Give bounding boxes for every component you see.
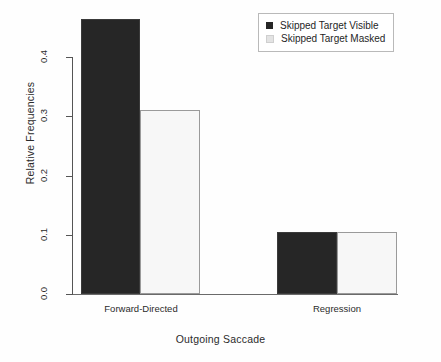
x-group-label-regression: Regression [277, 303, 397, 314]
bar-forward-directed-skipped-target-masked [140, 110, 200, 294]
legend-item-skipped-target-visible: Skipped Target Visible [266, 19, 385, 32]
x-axis-line [73, 294, 398, 295]
legend-item-skipped-target-masked: Skipped Target Masked [266, 32, 385, 45]
y-axis-tick-label: 0.0 [38, 277, 49, 311]
bar-regression-skipped-target-masked [337, 232, 397, 294]
x-axis-title: Outgoing Saccade [0, 333, 441, 345]
legend-swatch-light-icon [266, 35, 274, 43]
y-axis-tick-label: 0.4 [38, 40, 49, 74]
legend-swatch-dark-icon [266, 22, 273, 29]
x-group-label-forward-directed: Forward-Directed [81, 303, 201, 314]
y-axis-tick-label: 0.2 [38, 158, 49, 192]
y-axis-tick [66, 57, 73, 58]
y-axis-title: Relative Frequencies [24, 43, 36, 223]
plot-area [73, 10, 433, 295]
y-axis-tick [66, 294, 73, 295]
bar-regression-skipped-target-visible [277, 232, 337, 294]
legend: Skipped Target Visible Skipped Target Ma… [258, 13, 394, 52]
legend-label-skipped-target-visible: Skipped Target Visible [280, 20, 379, 31]
y-axis-tick [66, 235, 73, 236]
y-axis-tick-label: 0.3 [38, 99, 49, 133]
y-axis-tick [66, 176, 73, 177]
y-axis-tick-label: 0.1 [38, 217, 49, 251]
bar-chart: Relative Frequencies 0.00.10.20.30.4 For… [0, 0, 441, 362]
bar-forward-directed-skipped-target-visible [81, 19, 140, 295]
legend-label-skipped-target-masked: Skipped Target Masked [281, 33, 385, 44]
y-axis-tick [66, 116, 73, 117]
